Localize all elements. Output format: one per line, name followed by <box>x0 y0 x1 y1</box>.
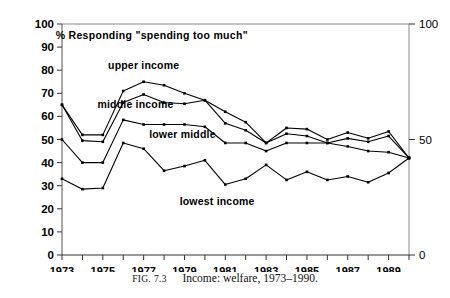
data-point <box>326 179 329 182</box>
data-point <box>183 123 186 126</box>
annotation-lower-middle: lower middle <box>149 128 216 140</box>
data-point <box>61 104 64 107</box>
x-tick-label: 1973 <box>50 265 74 272</box>
x-tick-label: 1985 <box>295 265 319 272</box>
data-point <box>81 188 84 191</box>
y-tick-label-right: 50 <box>419 134 432 146</box>
y-tick-label-left: 100 <box>35 18 54 30</box>
caption-number: 7.3 <box>154 274 167 284</box>
data-point <box>387 151 390 154</box>
data-point <box>244 177 247 180</box>
data-point <box>265 164 268 167</box>
y-tick-label-left: 30 <box>41 180 54 192</box>
data-point <box>285 132 288 135</box>
annotation-upper-income: upper income <box>108 59 179 71</box>
series-line-lowest-income <box>62 143 409 189</box>
line-chart-svg: 0102030405060708090100050100197319751977… <box>0 0 450 272</box>
data-point <box>163 123 166 126</box>
data-point <box>183 165 186 168</box>
data-point <box>61 138 64 141</box>
data-point <box>265 142 268 145</box>
chart-title: % Responding "spending too much" <box>56 29 248 41</box>
data-point <box>163 84 166 87</box>
data-point <box>285 179 288 182</box>
data-point <box>142 93 145 96</box>
x-tick-label: 1983 <box>254 265 278 272</box>
x-tick-label: 1979 <box>172 265 196 272</box>
data-point <box>408 157 411 160</box>
data-point <box>102 134 105 137</box>
data-point <box>122 119 125 122</box>
y-tick-label-left: 40 <box>41 157 54 169</box>
annotation-middle-income: middle income <box>97 98 173 110</box>
data-point <box>102 141 105 144</box>
data-point <box>306 128 309 131</box>
data-point <box>81 139 84 142</box>
data-point <box>326 138 329 141</box>
data-point <box>346 145 349 148</box>
chart-plot-area: 0102030405060708090100050100197319751977… <box>0 0 450 272</box>
data-point <box>142 80 145 83</box>
data-point <box>122 90 125 93</box>
x-tick-label: 1977 <box>131 265 155 272</box>
y-tick-label-left: 90 <box>41 41 54 53</box>
data-point <box>306 171 309 174</box>
data-point <box>285 127 288 130</box>
y-tick-label-left: 20 <box>41 203 54 215</box>
y-tick-label-left: 50 <box>41 134 54 146</box>
figure-welfare-income: 0102030405060708090100050100197319751977… <box>0 0 450 298</box>
data-point <box>122 142 125 145</box>
y-tick-label-left: 70 <box>41 87 54 99</box>
data-point <box>306 135 309 138</box>
y-tick-label-left: 60 <box>41 110 54 122</box>
data-point <box>326 142 329 145</box>
data-point <box>183 92 186 95</box>
data-point <box>367 137 370 140</box>
data-point <box>367 150 370 153</box>
data-point <box>367 181 370 184</box>
data-point <box>142 123 145 126</box>
data-point <box>142 147 145 150</box>
y-tick-label-right: 0 <box>419 249 425 261</box>
data-point <box>81 134 84 137</box>
data-point <box>204 99 207 102</box>
x-tick-label: 1981 <box>213 265 237 272</box>
data-point <box>81 161 84 164</box>
y-tick-label-left: 80 <box>41 64 54 76</box>
y-tick-label-left: 0 <box>48 249 54 261</box>
data-point <box>224 122 227 125</box>
data-point <box>285 142 288 145</box>
data-point <box>224 142 227 145</box>
data-point <box>346 175 349 178</box>
x-tick-label: 1989 <box>376 265 400 272</box>
data-point <box>102 187 105 190</box>
data-point <box>367 141 370 144</box>
caption-text: Income: welfare, 1973–1990. <box>182 272 317 284</box>
data-point <box>346 137 349 140</box>
data-point <box>61 177 64 180</box>
figure-caption: FIG. 7.3 Income: welfare, 1973–1990. <box>0 272 450 284</box>
data-point <box>102 161 105 164</box>
data-point <box>224 110 227 113</box>
data-point <box>387 130 390 133</box>
data-point <box>244 129 247 132</box>
y-tick-label-right: 100 <box>419 18 438 30</box>
annotation-lowest-income: lowest income <box>180 195 255 207</box>
data-point <box>346 131 349 134</box>
data-point <box>265 150 268 153</box>
x-tick-label: 1975 <box>91 265 115 272</box>
data-point <box>244 142 247 145</box>
y-tick-label-left: 10 <box>41 226 54 238</box>
data-point <box>204 159 207 162</box>
x-tick-label: 1987 <box>336 265 360 272</box>
data-point <box>306 142 309 145</box>
data-point <box>244 121 247 124</box>
data-point <box>163 169 166 172</box>
data-point <box>387 135 390 138</box>
data-point <box>387 172 390 175</box>
caption-prefix: FIG. <box>132 274 151 284</box>
data-point <box>224 183 227 186</box>
data-point <box>183 102 186 105</box>
